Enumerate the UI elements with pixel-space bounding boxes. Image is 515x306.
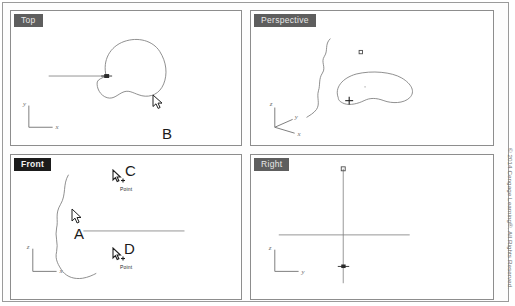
annotation-letter-a: A bbox=[74, 226, 84, 241]
annotation-letter-d: D bbox=[124, 241, 135, 256]
square-control-point bbox=[359, 50, 362, 53]
interior-point bbox=[364, 86, 366, 88]
annotation-letter-b: B bbox=[162, 126, 172, 141]
viewport-front[interactable]: z x A C Point D bbox=[10, 154, 242, 300]
svg-text:y: y bbox=[301, 268, 306, 275]
viewport-top[interactable]: y x B Top bbox=[10, 10, 242, 146]
viewport-right[interactable]: z y Right bbox=[250, 154, 494, 300]
viewport-label-right[interactable]: Right bbox=[254, 158, 289, 171]
svg-text:z: z bbox=[268, 244, 272, 251]
viewport-perspective[interactable]: z y x Perspective bbox=[250, 10, 494, 146]
annotation-sublabel-d: Point bbox=[120, 264, 132, 270]
closed-curve-perspective bbox=[337, 72, 412, 104]
svg-text:z: z bbox=[26, 243, 30, 250]
svg-text:x: x bbox=[297, 130, 302, 137]
svg-text:z: z bbox=[269, 100, 273, 107]
screenshot-root: y x B Top bbox=[0, 0, 515, 306]
svg-text:x: x bbox=[55, 123, 60, 130]
copyright-text: © 2014 Cengage Learning®. All Rights Res… bbox=[502, 148, 514, 298]
open-curve-perspective bbox=[307, 39, 331, 118]
svg-text:x: x bbox=[59, 267, 64, 274]
viewport-label-front[interactable]: Front bbox=[14, 158, 51, 171]
copyright-container: © 2014 Cengage Learning®. All Rights Res… bbox=[499, 150, 513, 304]
annotation-letter-c: C bbox=[125, 163, 136, 178]
closed-curve-top bbox=[97, 39, 166, 98]
cursor-arrow-icon bbox=[152, 94, 165, 110]
axis-indicator-perspective: z y x bbox=[269, 100, 302, 138]
viewport-grid: y x B Top bbox=[4, 4, 492, 300]
axis-indicator-right: z y bbox=[268, 244, 306, 276]
viewport-top-canvas[interactable]: y x bbox=[11, 11, 241, 145]
viewport-label-top[interactable]: Top bbox=[14, 14, 43, 27]
axis-indicator-front: z x bbox=[26, 243, 64, 275]
viewport-right-canvas[interactable]: z y bbox=[251, 155, 493, 299]
axis-indicator-top: y x bbox=[22, 100, 60, 131]
viewport-label-perspective[interactable]: Perspective bbox=[254, 14, 316, 27]
viewport-perspective-canvas[interactable]: z y x bbox=[251, 11, 493, 145]
cursor-arrow-icon bbox=[71, 208, 84, 225]
svg-text:y: y bbox=[22, 100, 27, 107]
annotation-sublabel-c: Point bbox=[120, 186, 132, 192]
plus-point-marker bbox=[345, 97, 353, 105]
point-marker bbox=[338, 264, 349, 268]
svg-text:y: y bbox=[294, 113, 299, 120]
